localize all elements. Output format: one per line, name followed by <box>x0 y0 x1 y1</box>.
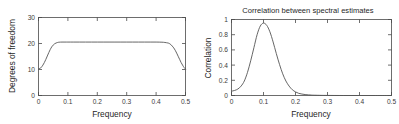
right-xaxis-label: Frequency <box>291 109 331 119</box>
left-y-ticklabels: 0 10 20 30 <box>28 14 36 99</box>
right-xticklabel-0: 0 <box>230 98 234 105</box>
right-x-ticks <box>232 20 392 96</box>
right-yticklabel-0: 0 <box>224 92 228 99</box>
right-yaxis-label: Correlation <box>203 37 213 78</box>
right-xticklabel-5: 0.5 <box>387 98 396 105</box>
left-axes-frame <box>39 18 186 96</box>
right-xticklabel-4: 0.4 <box>355 98 364 105</box>
left-xticklabel-3: 0.3 <box>122 98 131 105</box>
right-axes-frame <box>232 20 392 96</box>
left-y-ticks <box>39 18 186 96</box>
left-data-curve <box>39 42 186 69</box>
right-xticklabel-2: 0.2 <box>291 98 300 105</box>
left-xticklabel-2: 0.2 <box>93 98 102 105</box>
right-yticklabel-5: 1 <box>224 16 228 23</box>
right-y-ticklabels: 0 0.2 0.4 0.6 0.8 1 <box>219 16 229 99</box>
right-x-ticklabels: 0 0.1 0.2 0.3 0.4 0.5 <box>230 98 397 105</box>
right-yticklabel-1: 0.2 <box>219 77 228 84</box>
right-y-ticks <box>232 20 392 96</box>
left-x-ticks <box>39 18 186 96</box>
left-xticklabel-4: 0.4 <box>152 98 161 105</box>
figure-container: 0 10 20 30 0 0.1 0.2 0.3 0.4 0.5 Frequen… <box>0 0 399 124</box>
right-yticklabel-4: 0.8 <box>219 31 228 38</box>
left-xticklabel-1: 0.1 <box>63 98 72 105</box>
right-plot-title: Correlation between spectral estimates <box>242 6 373 15</box>
left-xticklabel-5: 0.5 <box>181 98 190 105</box>
right-yticklabel-3: 0.6 <box>219 46 228 53</box>
figure-svg: 0 10 20 30 0 0.1 0.2 0.3 0.4 0.5 Frequen… <box>0 0 399 124</box>
left-x-ticklabels: 0 0.1 0.2 0.3 0.4 0.5 <box>37 98 191 105</box>
right-data-curve <box>232 23 392 95</box>
right-xticklabel-1: 0.1 <box>259 98 268 105</box>
left-xaxis-label: Frequency <box>92 109 132 119</box>
left-yticklabel-3: 30 <box>28 14 36 21</box>
left-yaxis-label: Degrees of freedom <box>7 19 17 93</box>
left-yticklabel-2: 20 <box>28 40 36 47</box>
left-xticklabel-0: 0 <box>37 98 41 105</box>
right-yticklabel-2: 0.4 <box>219 62 228 69</box>
left-yticklabel-0: 0 <box>31 92 35 99</box>
left-yticklabel-1: 10 <box>28 66 36 73</box>
left-panel: 0 10 20 30 0 0.1 0.2 0.3 0.4 0.5 Frequen… <box>7 14 190 119</box>
right-panel: Correlation between spectral estimates <box>203 6 396 119</box>
right-xticklabel-3: 0.3 <box>323 98 332 105</box>
